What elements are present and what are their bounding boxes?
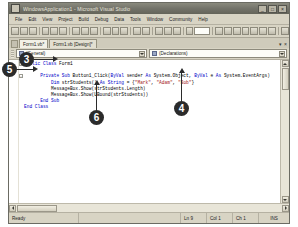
toolbar-icon-13[interactable] xyxy=(133,27,141,35)
member-dropdown-value: (Declarations) xyxy=(159,51,188,56)
menu-item-edit[interactable]: Edit xyxy=(25,17,39,22)
code-line-8[interactable]: End Class xyxy=(19,104,280,110)
code-token: MessageBox.Show(strStudents.Length) xyxy=(51,86,146,91)
scroll-left-button[interactable] xyxy=(9,205,16,212)
toolbar-separator xyxy=(130,27,131,35)
menu-item-file[interactable]: File xyxy=(12,17,25,22)
menu-item-project[interactable]: Project xyxy=(55,17,75,22)
scroll-down-button[interactable] xyxy=(282,196,289,203)
toolbar-icon-24[interactable] xyxy=(259,27,267,35)
code-token: Dim xyxy=(51,80,59,85)
toolbar-icon-6[interactable] xyxy=(59,27,67,35)
menu-item-community[interactable]: Community xyxy=(166,17,195,22)
status-spacer xyxy=(79,213,181,223)
menu-item-build[interactable]: Build xyxy=(76,17,92,22)
maximize-button[interactable]: □ xyxy=(268,5,277,13)
tab-dropdown-icon[interactable]: ▾ xyxy=(279,41,282,47)
scroll-right-button[interactable] xyxy=(282,205,289,212)
menu-item-window[interactable]: Window xyxy=(144,17,166,22)
code-editor-area: -Public Class Form1- Private Sub Button1… xyxy=(9,60,289,203)
toolbar-icon-1[interactable] xyxy=(11,27,19,35)
minimize-button[interactable]: _ xyxy=(258,5,267,13)
toolbar-separator xyxy=(183,27,184,35)
toolbar-grip[interactable] xyxy=(11,50,14,58)
code-token: System.Object, xyxy=(151,73,194,78)
callout-3-leader xyxy=(34,59,54,60)
object-dropdown[interactable]: (General) xyxy=(16,49,147,58)
tab-strip-controls: ▾ × xyxy=(279,41,287,47)
window-controls: _ □ × xyxy=(258,5,287,13)
callout-5-leader xyxy=(17,69,33,70)
code-token: ByVal xyxy=(110,73,124,78)
status-bar: Ready Ln 9 Col 1 Ch 1 INS xyxy=(9,212,289,223)
toolbar-icon-12[interactable] xyxy=(120,27,128,35)
toolbar-icon-15[interactable] xyxy=(155,27,163,35)
toolbar-icon-8[interactable] xyxy=(81,27,89,35)
toolbar-icon-14[interactable] xyxy=(142,27,150,35)
toolbar-icon-23[interactable] xyxy=(250,27,258,35)
horizontal-scroll-thumb[interactable] xyxy=(17,205,57,212)
indent-spacer xyxy=(24,86,51,91)
status-insert-mode: INS xyxy=(259,213,289,223)
main-toolbar xyxy=(9,25,289,38)
editor-horizontal-scrollbar[interactable] xyxy=(9,203,289,212)
callout-3-arrowhead xyxy=(53,56,58,62)
status-character: Ch 1 xyxy=(233,213,259,223)
menu-bar: FileEditViewProjectBuildDebugDataToolsWi… xyxy=(9,14,289,25)
callout-4-arrowhead xyxy=(179,68,185,73)
toolbar-configuration-combo[interactable] xyxy=(194,27,210,35)
toolbar-separator xyxy=(152,27,153,35)
scroll-up-button[interactable] xyxy=(282,60,289,67)
toolbar-separator xyxy=(69,27,70,35)
code-editor[interactable]: -Public Class Form1- Private Sub Button1… xyxy=(19,60,280,203)
menu-item-debug[interactable]: Debug xyxy=(92,17,112,22)
toolbar-icon-11[interactable] xyxy=(112,27,120,35)
toolbar-icon-16[interactable] xyxy=(164,27,172,35)
callout-6-leader xyxy=(96,84,97,111)
visual-studio-icon xyxy=(11,4,20,13)
editor-vertical-scrollbar[interactable] xyxy=(280,60,289,203)
editor-indicator-margin[interactable] xyxy=(9,60,19,203)
toolbar-icon-21[interactable] xyxy=(233,27,241,35)
toolbar-icon-26[interactable] xyxy=(281,27,289,35)
vertical-scroll-thumb[interactable] xyxy=(282,68,289,90)
toolbar-icon-20[interactable] xyxy=(224,27,232,35)
toolbar-icon-7[interactable] xyxy=(72,27,80,35)
callout-5-arrowhead xyxy=(33,66,38,72)
menu-item-data[interactable]: Data xyxy=(111,17,127,22)
toolbar-icon-10[interactable] xyxy=(103,27,111,35)
menu-item-tools[interactable]: Tools xyxy=(127,17,144,22)
code-token: "Adam" xyxy=(156,80,172,85)
toolbar-icon-19[interactable] xyxy=(215,27,223,35)
window-title: WindowsApplication1 - Microsoft Visual S… xyxy=(23,6,258,12)
chevron-down-icon[interactable] xyxy=(139,51,145,57)
toolbar-icon-18[interactable] xyxy=(186,27,194,35)
toolbar-icon-2[interactable] xyxy=(20,27,28,35)
indent-spacer xyxy=(24,73,40,78)
tab-list-icon[interactable] xyxy=(11,40,18,48)
indent-spacer xyxy=(24,92,51,97)
tab-close-icon[interactable]: × xyxy=(284,41,287,47)
toolbar-icon-3[interactable] xyxy=(29,27,37,35)
visual-studio-window: WindowsApplication1 - Microsoft Visual S… xyxy=(8,2,290,224)
toolbar-icon-25[interactable] xyxy=(268,27,276,35)
member-dropdown[interactable]: (Declarations) xyxy=(149,49,287,58)
code-token: Form1 xyxy=(56,61,72,66)
collapse-toggle-icon[interactable]: - xyxy=(19,74,23,78)
toolbar-separator xyxy=(212,27,213,35)
toolbar-icon-22[interactable] xyxy=(242,27,250,35)
code-token: MessageBox.Show(UBound(strStudents)) xyxy=(51,92,148,97)
chevron-down-icon[interactable] xyxy=(279,51,285,57)
toolbar-icon-9[interactable] xyxy=(90,27,98,35)
document-tab-0[interactable]: Form1.vb* xyxy=(19,39,48,48)
toolbar-icon-4[interactable] xyxy=(42,27,50,35)
toolbar-icon-5[interactable] xyxy=(50,27,58,35)
menu-item-view[interactable]: View xyxy=(39,17,55,22)
menu-item-help[interactable]: Help xyxy=(195,17,210,22)
close-button[interactable]: × xyxy=(278,5,287,13)
indent-spacer xyxy=(24,98,40,103)
toolbar-icon-17[interactable] xyxy=(173,27,181,35)
document-tab-1[interactable]: Form1.vb [Design]* xyxy=(49,39,96,48)
code-token: "Mark" xyxy=(135,80,151,85)
document-tab-strip: Form1.vb*Form1.vb [Design]* ▾ × xyxy=(9,38,289,48)
